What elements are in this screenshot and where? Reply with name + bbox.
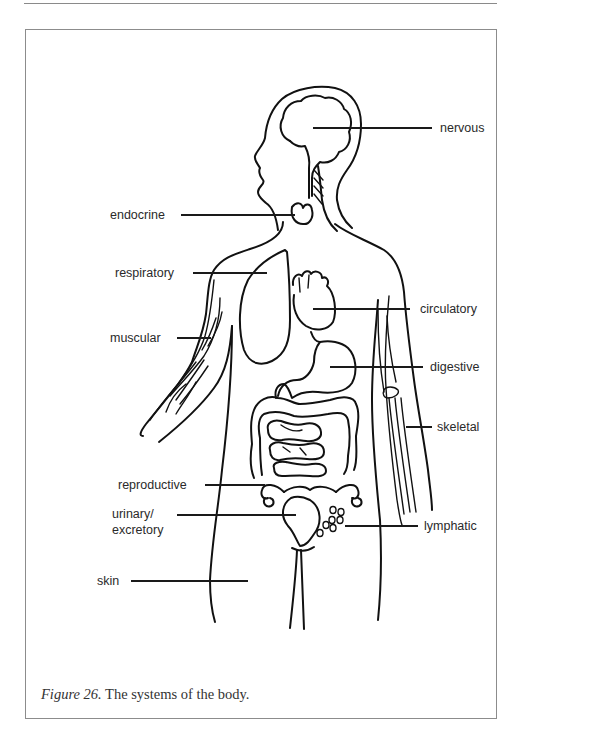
arm-muscles [150, 280, 222, 420]
body-outline [141, 87, 432, 629]
label-lymphatic: lymphatic [424, 519, 477, 533]
label-muscular: muscular [110, 331, 161, 345]
label-urinary: urinary/ [112, 507, 154, 521]
label-nervous: nervous [440, 121, 484, 135]
figure-caption: Figure 26. The systems of the body. [41, 686, 250, 703]
body-systems-diagram: nervous endocrine respiratory circulator… [0, 0, 601, 744]
figure-number: Figure 26. [41, 686, 102, 702]
bladder [283, 497, 320, 546]
figure-caption-text: The systems of the body. [102, 686, 250, 702]
lung [240, 250, 290, 364]
arm-bones [378, 296, 416, 525]
label-digestive: digestive [430, 360, 479, 374]
intestines [251, 397, 359, 478]
label-respiratory: respiratory [115, 266, 175, 280]
label-skeletal: skeletal [437, 420, 479, 434]
label-circulatory: circulatory [420, 302, 478, 316]
heart [293, 271, 335, 329]
lymph-nodes [317, 507, 344, 537]
label-skin: skin [97, 574, 119, 588]
label-excretory: excretory [112, 523, 164, 537]
label-endocrine: endocrine [110, 208, 165, 222]
thyroid [292, 203, 313, 224]
uterus [261, 485, 361, 507]
label-reproductive: reproductive [118, 478, 187, 492]
